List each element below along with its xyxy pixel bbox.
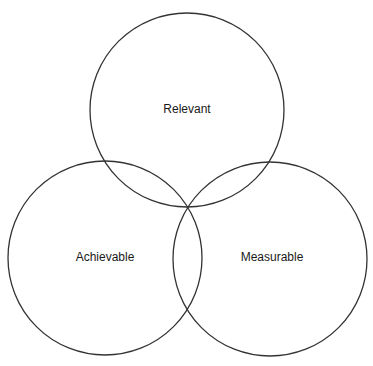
- venn-diagram: Relevant Achievable Measurable: [0, 0, 373, 366]
- label-relevant: Relevant: [163, 102, 211, 116]
- label-measurable: Measurable: [241, 250, 304, 264]
- label-achievable: Achievable: [76, 250, 135, 264]
